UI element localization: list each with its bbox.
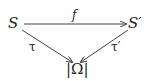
- arrow-tau-prime: [81, 30, 128, 62]
- label-f: f: [72, 9, 76, 21]
- node-s: S: [8, 16, 18, 31]
- label-tau: τ: [29, 41, 36, 53]
- label-tau-prime: τ′: [111, 41, 120, 53]
- node-omega: |Ω|: [66, 62, 89, 77]
- node-s-prime: S′: [128, 16, 142, 31]
